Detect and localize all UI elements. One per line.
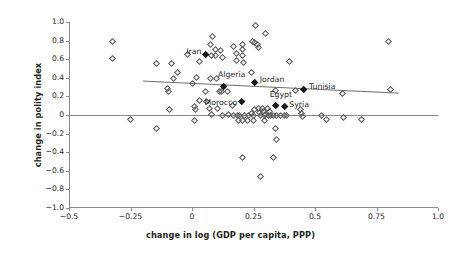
y-tick-label: 0.4: [18, 73, 64, 82]
point-label-syria: Syria: [289, 101, 309, 109]
x-tick-mark: [377, 208, 378, 211]
x-tick-mark: [192, 208, 193, 211]
x-axis-title: change in log (GDP per capita, PPP): [0, 230, 461, 240]
y-tick-label: −1.0: [18, 203, 64, 212]
point-label-egypt: Egypt: [270, 91, 293, 99]
y-tick-mark: [66, 78, 69, 79]
x-tick-label: −0.25: [101, 212, 161, 221]
x-tick-mark: [438, 208, 439, 211]
x-tick-label: 0.5: [285, 212, 345, 221]
x-tick-label: 0: [162, 212, 222, 221]
y-tick-mark: [66, 152, 69, 153]
point-label-algeria: Algeria: [218, 71, 245, 79]
x-tick-mark: [315, 208, 316, 211]
x-tick-label: 1.0: [408, 212, 461, 221]
y-tick-mark: [66, 59, 69, 60]
x-tick-mark: [69, 208, 70, 211]
y-tick-label: −0.6: [18, 166, 64, 175]
y-tick-mark: [66, 96, 69, 97]
y-tick-mark: [66, 171, 69, 172]
x-tick-label: 0.25: [224, 212, 284, 221]
y-tick-label: −0.2: [18, 129, 64, 138]
plot-area: 1.00.80.60.40.20−0.2−0.4−0.6−0.8−1.0 −0.…: [69, 22, 438, 208]
point-label-tunisia: Tunisia: [309, 83, 336, 91]
y-tick-label: 1.0: [18, 17, 64, 26]
y-tick-mark: [66, 115, 69, 116]
scatter-plot-figure: change in polity index change in log (GD…: [0, 0, 461, 254]
x-tick-mark: [131, 208, 132, 211]
x-tick-label: 0.75: [347, 212, 407, 221]
x-tick-label: −0.5: [39, 212, 99, 221]
y-tick-label: 0.6: [18, 54, 64, 63]
y-tick-label: 0: [18, 110, 64, 119]
point-label-iran: Iran: [186, 48, 201, 56]
y-tick-label: −0.4: [18, 147, 64, 156]
point-label-morocco: Morocco: [205, 99, 238, 107]
y-tick-label: 0.2: [18, 91, 64, 100]
y-tick-mark: [66, 41, 69, 42]
y-tick-mark: [66, 189, 69, 190]
y-tick-mark: [66, 134, 69, 135]
y-tick-mark: [66, 22, 69, 23]
y-tick-label: 0.8: [18, 36, 64, 45]
x-tick-mark: [254, 208, 255, 211]
y-tick-label: −0.8: [18, 184, 64, 193]
point-label-jordan: Jordan: [260, 76, 285, 84]
